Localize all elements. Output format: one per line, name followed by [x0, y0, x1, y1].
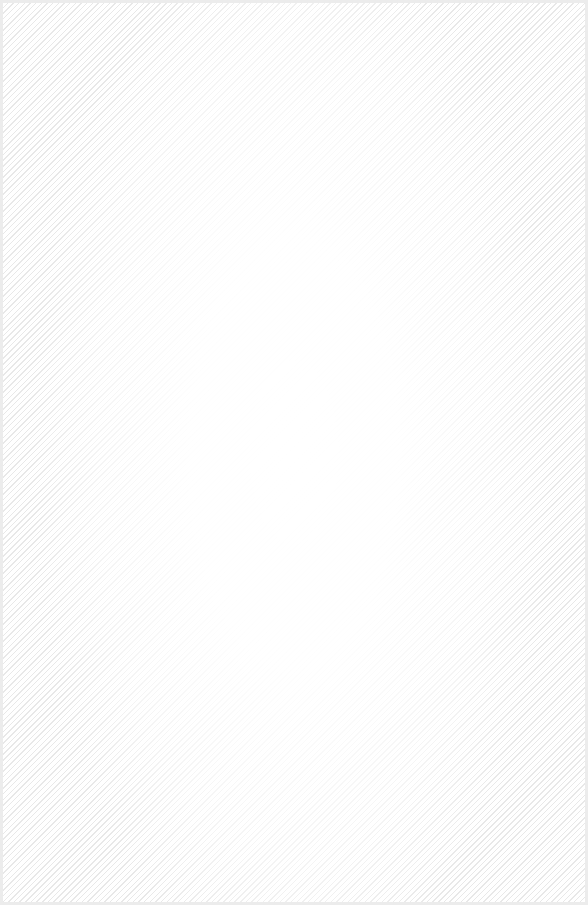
textured-blank-page — [3, 3, 585, 902]
